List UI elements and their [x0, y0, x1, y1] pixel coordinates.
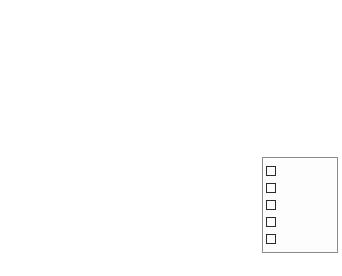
legend-swatch-icon	[266, 166, 276, 176]
legend-item[interactable]	[266, 213, 334, 230]
legend-item[interactable]	[266, 179, 334, 196]
legend-item[interactable]	[266, 162, 334, 179]
legend-swatch-icon	[266, 183, 276, 193]
chart-legend	[262, 157, 338, 253]
legend-item[interactable]	[266, 230, 334, 247]
chart-3d-column	[0, 0, 342, 276]
legend-swatch-icon	[266, 234, 276, 244]
legend-item[interactable]	[266, 196, 334, 213]
legend-swatch-icon	[266, 217, 276, 227]
legend-swatch-icon	[266, 200, 276, 210]
